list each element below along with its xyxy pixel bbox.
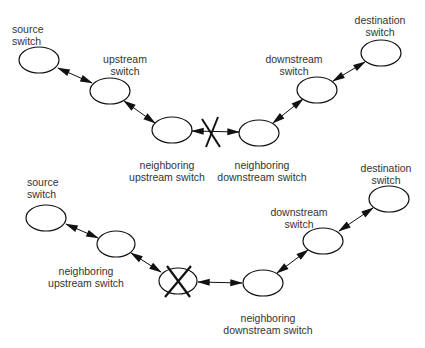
link-down-dest-top	[333, 62, 365, 81]
node-neighboring-downstream-switch-top	[239, 120, 279, 146]
label-neighboring-downstream-switch-top: neighboring downstream switch	[217, 160, 306, 183]
label-line: switch	[27, 189, 59, 201]
label-line: neighboring	[48, 266, 124, 278]
label-line: source	[27, 177, 59, 189]
link-down-dest-bottom	[339, 208, 373, 231]
node-destination-switch-bottom	[369, 186, 409, 212]
label-line: switch	[265, 66, 322, 78]
label-neighboring-upstream-switch-top: neighboring upstream switch	[129, 160, 205, 183]
label-line: downstream	[270, 207, 327, 219]
label-line: neighboring	[217, 160, 306, 172]
top-diagram	[19, 40, 401, 147]
label-neighboring-upstream-switch-bottom: neighboring upstream switch	[48, 266, 124, 289]
node-neighboring-upstream-switch-bottom	[97, 231, 135, 257]
label-line: downstream switch	[217, 172, 306, 184]
label-line: upstream switch	[129, 172, 205, 184]
label-line: source	[12, 24, 44, 36]
label-line: switch	[12, 36, 44, 48]
label-line: switch	[361, 175, 412, 187]
node-source-switch-top	[19, 47, 59, 73]
link-ndown-down-bottom	[277, 250, 308, 273]
node-neighboring-downstream-switch-bottom	[243, 270, 283, 296]
label-line: neighboring	[223, 313, 312, 325]
label-line: destination	[361, 163, 412, 175]
label-line: upstream	[103, 54, 147, 66]
label-line: switch	[355, 27, 406, 39]
label-source-switch-bottom: source switch	[27, 177, 59, 200]
link-source-upstream-top	[58, 68, 92, 83]
label-source-switch-top: source switch	[12, 24, 44, 47]
label-line: destination	[355, 15, 406, 27]
link-source-nup-bottom	[66, 224, 98, 238]
node-source-switch-bottom	[26, 205, 66, 231]
label-destination-switch-bottom: destination switch	[361, 163, 412, 186]
link-failed-ndown-bottom	[198, 282, 242, 283]
label-line: switch	[103, 66, 147, 78]
label-line: switch	[270, 219, 327, 231]
label-downstream-switch-bottom: downstream switch	[270, 207, 327, 230]
label-line: downstream	[265, 54, 322, 66]
label-destination-switch-top: destination switch	[355, 15, 406, 38]
node-neighboring-upstream-switch-top	[152, 117, 192, 143]
link-upstream-nup-top	[124, 101, 155, 123]
label-neighboring-downstream-switch-bottom: neighboring downstream switch	[223, 313, 312, 336]
label-line: neighboring	[129, 160, 205, 172]
label-line: downstream switch	[223, 325, 312, 337]
label-downstream-switch-top: downstream switch	[265, 54, 322, 77]
link-nup-failed-bottom	[131, 253, 161, 272]
link-ndown-down-top	[273, 99, 303, 123]
node-downstream-switch-bottom	[303, 228, 343, 254]
node-upstream-switch-top	[90, 78, 130, 104]
label-line: upstream switch	[48, 278, 124, 290]
node-destination-switch-top	[361, 40, 401, 66]
link-nup-ndown-top	[192, 131, 239, 132]
label-upstream-switch-top: upstream switch	[103, 54, 147, 77]
